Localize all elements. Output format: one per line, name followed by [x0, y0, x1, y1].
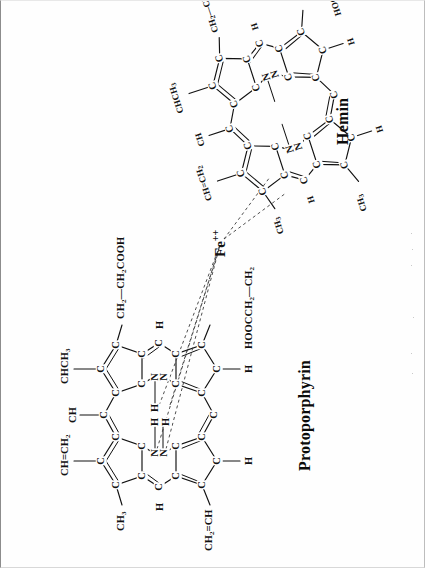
atom-c: C — [111, 389, 122, 398]
atom-h-core: H — [161, 417, 172, 426]
coordination-dashed-lines — [157, 177, 286, 449]
label-meso-h-bottomleft: H — [244, 457, 255, 465]
atom-c: C — [137, 472, 148, 481]
label-meso-h-right: H — [155, 321, 166, 329]
atom-h-core: H — [150, 403, 161, 412]
atom-c: C — [197, 341, 208, 350]
atom-c: C — [137, 350, 148, 359]
protoporphyrin-title: Protoporphyrin — [296, 360, 314, 471]
atom-c: C — [154, 339, 165, 348]
atom-c: C — [212, 365, 223, 374]
atom-c: C — [111, 433, 122, 442]
atom-c: C — [154, 483, 165, 492]
label-vinyl-top: CH=CH2 — [60, 434, 72, 476]
atom-c: C — [171, 442, 182, 451]
atom-c: C — [171, 380, 182, 389]
scan-speckle — [413, 317, 414, 318]
scanned-page: C C C C C C C C C C C C C C C C C C C C … — [0, 0, 425, 568]
label-propionate-bottom: HOOCCH2—CH2 — [244, 267, 256, 349]
scan-speckle — [411, 233, 412, 234]
label-methyl-topleft: CH3 — [116, 511, 128, 531]
atom-c: C — [197, 433, 208, 442]
atom-n: N — [159, 373, 170, 382]
hemin-title: Hemin — [334, 98, 352, 145]
rotated-figure-canvas: C C C C C C C C C C C C C C C C C C C C … — [24, 25, 404, 545]
atom-c: C — [111, 341, 122, 350]
scan-speckle — [412, 373, 413, 374]
label-propionate-right: CH2—CH2COOH — [116, 237, 128, 319]
label-meso-h-bottomright: H — [244, 365, 255, 373]
atom-c: C — [99, 411, 110, 420]
scan-speckle — [412, 249, 413, 250]
figure-canvas: C C C C C C C C C C C C C C C C C C C C … — [24, 25, 404, 545]
atom-c: C — [212, 457, 223, 466]
atom-c: C — [171, 472, 182, 481]
atom-n: N — [159, 449, 170, 458]
atom-c: C — [96, 365, 107, 374]
iron-center-label: Fe++ — [210, 230, 229, 257]
label-hemin-propionate-bottom: HOOCCH2 — [321, 0, 345, 17]
label-meso-ch-top: CH — [68, 407, 79, 423]
scan-speckle — [411, 265, 412, 266]
atom-c: C — [111, 481, 122, 490]
label-meso-h-left: H — [155, 503, 166, 511]
atom-c: C — [137, 380, 148, 389]
label-vinyl-left: CH2=CH — [204, 509, 216, 551]
atom-c: C — [137, 442, 148, 451]
atom-c: C — [197, 481, 208, 490]
atom-c: C — [197, 389, 208, 398]
atom-c: C — [96, 457, 107, 466]
atom-c: C — [171, 350, 182, 359]
atom-h-core: H — [150, 417, 161, 426]
label-ethylidene: CHCH3 — [60, 348, 72, 384]
atom-c: C — [209, 411, 220, 420]
scan-speckle — [411, 353, 412, 354]
